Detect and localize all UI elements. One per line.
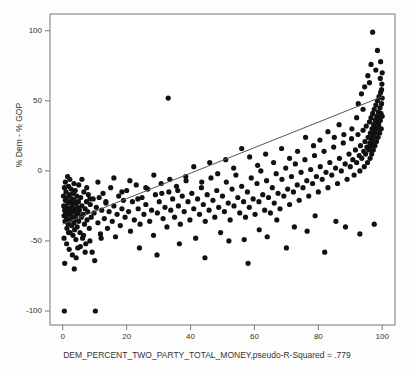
data-point — [249, 175, 254, 180]
data-point — [73, 188, 78, 193]
data-point — [306, 194, 311, 199]
data-point — [325, 129, 330, 134]
data-point — [203, 219, 208, 224]
data-point — [247, 205, 252, 210]
data-point — [166, 95, 171, 100]
data-point — [72, 266, 77, 271]
data-point — [195, 196, 200, 201]
data-point — [64, 241, 69, 246]
data-point — [291, 189, 296, 194]
data-point — [262, 208, 267, 213]
data-point — [94, 205, 99, 210]
data-point — [375, 48, 380, 53]
data-point — [325, 185, 330, 190]
data-point — [168, 208, 173, 213]
data-point — [379, 81, 384, 86]
scatter-plot-figure: % Dem - % GOP DEM_PERCENT_TWO_PARTY_TOTA… — [0, 0, 414, 373]
data-point — [110, 219, 115, 224]
data-point — [368, 62, 373, 67]
data-point — [231, 203, 236, 208]
data-point — [176, 203, 181, 208]
data-point — [264, 178, 269, 183]
data-point — [199, 180, 204, 185]
data-point — [277, 206, 282, 211]
data-point — [317, 137, 322, 142]
data-point — [279, 177, 284, 182]
data-point — [166, 189, 171, 194]
x-tick-label: 40 — [176, 332, 206, 341]
data-point — [316, 189, 321, 194]
data-point — [128, 229, 133, 234]
data-point — [89, 215, 94, 220]
data-point — [108, 185, 113, 190]
data-point — [93, 308, 98, 313]
data-point — [285, 187, 290, 192]
data-point — [295, 182, 300, 187]
data-point — [337, 122, 342, 127]
data-point — [263, 151, 268, 156]
data-point — [239, 184, 244, 189]
data-point — [141, 212, 146, 217]
data-point — [177, 241, 182, 246]
data-point — [293, 161, 298, 166]
data-point — [320, 177, 325, 182]
data-point — [239, 146, 244, 151]
data-point — [70, 233, 75, 238]
data-point — [333, 166, 338, 171]
data-point — [137, 245, 142, 250]
data-point — [114, 212, 119, 217]
data-point — [130, 199, 135, 204]
data-point — [119, 189, 124, 194]
data-point — [61, 236, 66, 241]
data-point — [124, 188, 129, 193]
data-point — [333, 219, 338, 224]
data-point — [380, 70, 385, 75]
data-point — [303, 135, 308, 140]
data-point — [362, 84, 367, 89]
data-point — [308, 167, 313, 172]
data-point — [355, 132, 360, 137]
data-point — [363, 151, 368, 156]
data-point — [102, 216, 107, 221]
data-point — [132, 217, 137, 222]
data-point — [143, 185, 148, 190]
data-point — [134, 182, 139, 187]
data-point — [358, 143, 363, 148]
data-point — [348, 164, 353, 169]
data-point — [95, 180, 100, 185]
data-point — [362, 164, 367, 169]
y-tick-label: 0 — [16, 166, 42, 175]
data-point — [113, 234, 118, 239]
data-point — [212, 215, 217, 220]
data-point — [349, 136, 354, 141]
data-point — [153, 192, 158, 197]
data-point — [362, 139, 367, 144]
y-tick-label: 50 — [16, 96, 42, 105]
data-point — [155, 210, 160, 215]
data-point — [298, 170, 303, 175]
data-point — [170, 196, 175, 201]
data-point — [66, 230, 71, 235]
data-point — [135, 196, 140, 201]
data-point — [187, 217, 192, 222]
x-tick-label: 20 — [112, 332, 142, 341]
data-point — [233, 173, 238, 178]
data-point — [62, 261, 67, 266]
data-point — [119, 206, 124, 211]
data-point — [379, 87, 384, 92]
data-point — [378, 59, 383, 64]
data-point — [300, 185, 305, 190]
data-point — [284, 245, 289, 250]
data-point — [76, 182, 81, 187]
data-point — [218, 230, 223, 235]
data-point — [359, 156, 364, 161]
data-point — [271, 160, 276, 165]
data-point — [237, 210, 242, 215]
data-point — [372, 222, 377, 227]
y-tick-label: 100 — [16, 26, 42, 35]
data-point — [243, 215, 248, 220]
data-point — [210, 198, 215, 203]
data-point — [287, 156, 292, 161]
data-point — [321, 149, 326, 154]
data-point — [87, 196, 92, 201]
